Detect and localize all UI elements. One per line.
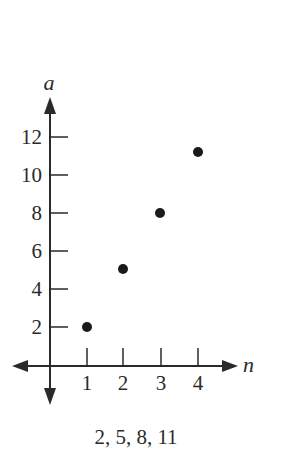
y-axis-label: a bbox=[44, 70, 55, 95]
x-axis-left-arrow-icon bbox=[12, 360, 28, 372]
x-tick-label: 2 bbox=[118, 371, 129, 395]
axes bbox=[12, 97, 238, 405]
x-tick-label: 3 bbox=[156, 371, 167, 395]
y-tick-labels: 12 10 8 6 4 2 bbox=[21, 125, 43, 339]
y-tick-label: 12 bbox=[21, 125, 42, 149]
x-tick-label: 1 bbox=[82, 371, 93, 395]
y-axis-up-arrow-icon bbox=[44, 97, 56, 114]
x-axis-label: n bbox=[243, 352, 254, 377]
x-ticks bbox=[87, 348, 198, 366]
y-tick-label: 4 bbox=[32, 277, 43, 301]
sequence-plot: 12 10 8 6 4 2 1 2 3 4 a n 2, 5, 8, 11 bbox=[0, 0, 284, 474]
y-tick-label: 2 bbox=[32, 315, 43, 339]
x-tick-labels: 1 2 3 4 bbox=[82, 371, 204, 395]
y-ticks bbox=[50, 137, 68, 327]
x-tick-label: 4 bbox=[193, 371, 204, 395]
data-point bbox=[193, 147, 203, 157]
y-axis-down-arrow-icon bbox=[44, 388, 56, 405]
y-tick-label: 8 bbox=[32, 201, 43, 225]
data-point bbox=[155, 208, 165, 218]
data-point bbox=[118, 264, 128, 274]
data-point bbox=[82, 322, 92, 332]
x-axis-right-arrow-icon bbox=[222, 360, 238, 372]
y-tick-label: 6 bbox=[32, 239, 43, 263]
data-points bbox=[82, 147, 203, 332]
sequence-caption: 2, 5, 8, 11 bbox=[94, 425, 177, 449]
y-tick-label: 10 bbox=[21, 163, 42, 187]
